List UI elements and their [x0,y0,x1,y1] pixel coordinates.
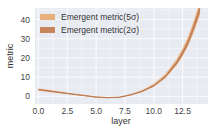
legend-swatch-5sigma [40,14,55,20]
x-tick-label: 0.0 [33,106,45,116]
x-tick-label: 2.5 [61,106,73,116]
x-axis-ticks: 0.02.55.07.510.012.5 [33,106,192,116]
legend-label-5sigma: Emergent metric(5σ) [61,12,139,22]
legend-swatch-2sigma [40,27,55,33]
x-tick-label: 5.0 [90,106,102,116]
x-tick-label: 10.0 [146,106,163,116]
y-tick-label: 30 [21,34,31,44]
x-tick-label: 12.5 [174,106,191,116]
y-tick-label: 40 [21,15,31,25]
x-axis-label: layer [111,116,131,126]
y-tick-label: 0 [25,91,30,101]
y-tick-label: 10 [21,72,31,82]
legend-label-2sigma: Emergent metric(2σ) [61,25,139,35]
y-axis-ticks: 010203040 [21,15,31,102]
x-tick-label: 7.5 [119,106,131,116]
line-chart: 0.02.55.07.510.012.5 010203040 layer met… [0,0,218,130]
y-axis-label: metric [5,43,15,68]
y-tick-label: 20 [21,53,31,63]
